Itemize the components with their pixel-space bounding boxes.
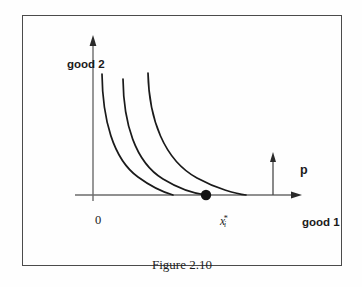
indifference-curve-plot <box>23 16 341 264</box>
price-vector-arrow-icon <box>270 152 276 162</box>
indifference-curve-2 <box>123 79 206 195</box>
figure-caption: Figure 2.10 <box>23 257 341 273</box>
indifference-curve-1 <box>102 74 173 195</box>
origin-label: 0 <box>95 214 101 227</box>
figure-page: good 2 good 1 0 p xi* Figure 2.10 <box>0 0 362 287</box>
optimal-bundle-superscript: * <box>223 213 227 223</box>
optimal-bundle-label: xi* <box>220 214 227 229</box>
y-axis-arrow-icon <box>90 35 97 46</box>
optimal-bundle-dot <box>201 190 211 200</box>
y-axis-label: good 2 <box>67 59 105 71</box>
indifference-curve-3 <box>148 73 246 195</box>
figure-border: good 2 good 1 0 p xi* Figure 2.10 <box>22 15 342 266</box>
price-vector-label: p <box>300 164 308 177</box>
x-axis-label: good 1 <box>302 217 340 229</box>
x-axis-arrow-icon <box>291 192 302 199</box>
